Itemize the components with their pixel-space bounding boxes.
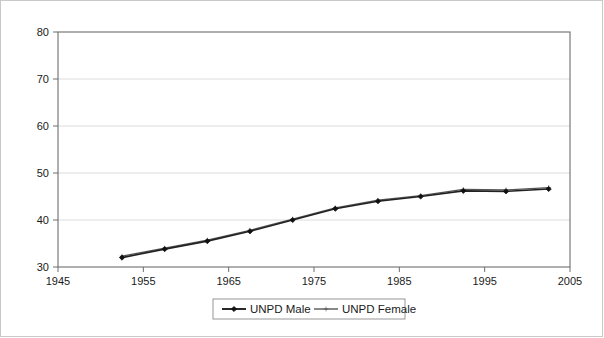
line-unpd-male [122,189,549,258]
y-axis-ticks [53,32,58,267]
plot-area-border [58,32,570,267]
gridlines [58,79,570,220]
y-tick-label-70: 70 [37,73,49,85]
x-tick-label-1995: 1995 [472,275,496,287]
x-tick-label-1985: 1985 [387,275,411,287]
y-axis-tick-labels: 304050607080 [37,26,49,273]
plot-border [58,32,570,267]
x-tick-label-1945: 1945 [46,275,70,287]
x-tick-label-1965: 1965 [216,275,240,287]
line-chart: 304050607080 194519551965197519851995200… [0,0,604,338]
legend-label-unpd-male: UNPD Male [250,303,311,315]
chart-legend: UNPD MaleUNPD Female [213,299,416,319]
series-unpd-male [119,186,551,260]
x-tick-label-1955: 1955 [131,275,155,287]
y-tick-label-50: 50 [37,167,49,179]
x-axis-tick-labels: 1945195519651975198519952005 [46,275,582,287]
chart-canvas: 304050607080 194519551965197519851995200… [0,0,604,338]
y-tick-label-80: 80 [37,26,49,38]
series-unpd-female [120,185,551,258]
data-point [375,199,380,204]
x-tick-label-1975: 1975 [302,275,326,287]
y-tick-label-30: 30 [37,261,49,273]
y-tick-label-60: 60 [37,120,49,132]
x-tick-label-2005: 2005 [558,275,582,287]
legend-label-unpd-female: UNPD Female [342,303,416,315]
chart-page: 304050607080 194519551965197519851995200… [0,0,604,338]
y-tick-label-40: 40 [37,214,49,226]
x-axis-ticks [58,267,570,272]
